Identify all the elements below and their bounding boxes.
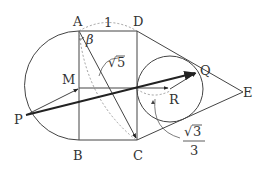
sqrt3-numerator: 3 (193, 124, 201, 139)
label-e: E (243, 85, 253, 100)
sqrt3-denominator: 3 (190, 143, 198, 158)
vector-pm (26, 89, 78, 115)
sqrt5-value: 5 (117, 55, 125, 70)
radius-arc (137, 89, 170, 95)
angle-beta-label: β (85, 32, 94, 47)
label-b: B (73, 148, 83, 163)
ad-length-label: 1 (104, 15, 112, 30)
geometry-diagram: A D B C E M P Q R 1 β √ 5 √ 3 3 (0, 0, 268, 175)
sqrt5-radical: √ (108, 55, 117, 70)
label-m: M (62, 72, 75, 87)
sqrt3-pointer-head (151, 100, 155, 104)
label-a: A (72, 14, 83, 29)
label-p: P (14, 112, 23, 127)
diagonal-ac (79, 31, 136, 138)
label-d: D (133, 14, 143, 29)
sqrt3-radical: √ (184, 124, 193, 139)
label-q: Q (200, 63, 211, 78)
label-r: R (169, 92, 180, 107)
label-c: C (133, 148, 143, 163)
